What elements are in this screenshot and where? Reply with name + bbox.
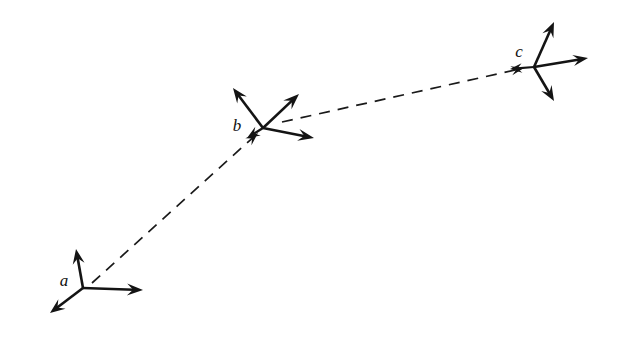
frame-c-axis-left [510,63,534,73]
frame-c-axis-right [534,55,588,67]
frame-c-axis-down-right-arrowhead [541,85,554,101]
frame-a-axis-up-shaft [78,258,83,288]
frame-c-axis-down-right-shaft [534,67,550,94]
frame-c-axis-right-shaft [534,59,579,67]
frame-a-axis-up [73,249,85,288]
trajectory-group [92,66,524,283]
frame-c-axis-left-shaft [517,67,534,68]
frame-b-axis-right-down-shaft [263,128,305,136]
frame-labels-group: abc [60,42,523,290]
frame-b-axis-up-right [263,94,299,128]
frame-a-axis-down-left-shaft [57,288,83,308]
frame-b-axis-down-left [247,127,263,138]
coordinate-frame-c [510,22,588,101]
frame-b-axis-up-left-shaft [238,95,263,128]
frame-label-c: c [515,42,523,61]
trajectory-b-to-c-dashed-line [282,70,517,122]
trajectory-a-to-b [92,133,258,283]
figure-canvas: abc [0,0,621,339]
coordinate-frame-b [233,88,314,141]
frame-b-axis-right-down [263,128,314,141]
frame-b-axis-up-right-shaft [263,100,292,128]
coordinate-frames-group [50,22,588,313]
frame-a-axis-right [83,283,143,295]
frame-b-axis-down-left-arrowhead [247,127,261,138]
frame-label-a: a [60,271,69,290]
trajectory-b-to-c [282,66,524,122]
coordinate-frame-diagram: abc [0,0,621,339]
frame-c-axis-up-right-shaft [534,30,550,67]
frame-c-axis-up-right [534,22,554,67]
frame-a-axis-down-left [50,288,83,313]
frame-c-axis-down-right [534,67,554,101]
frame-label-b: b [233,116,242,135]
trajectory-a-to-b-dashed-line [92,138,253,283]
frame-b-axis-down-left-shaft [253,128,263,134]
frame-a-axis-right-shaft [83,288,134,290]
